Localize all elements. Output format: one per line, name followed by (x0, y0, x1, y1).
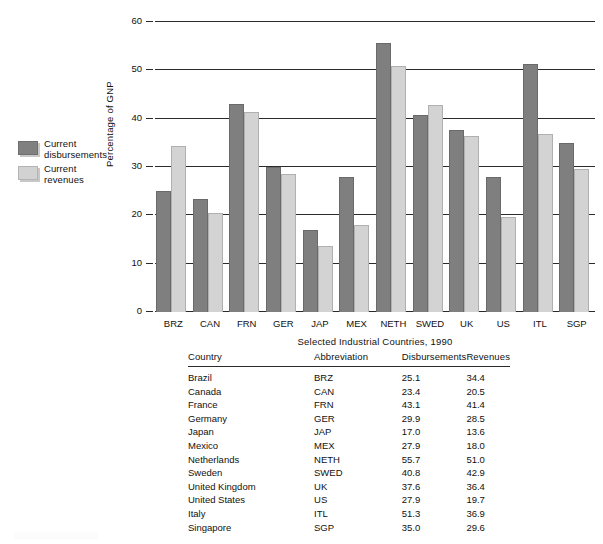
cell-disbursements: 55.7 (402, 453, 467, 467)
cell-abbreviation: CAN (314, 385, 402, 399)
cell-abbreviation: SWED (314, 467, 402, 481)
cell-disbursements: 35.0 (402, 521, 467, 535)
cell-abbreviation: MEX (314, 439, 402, 453)
column-header-abbreviation: Abbreviation (314, 351, 402, 367)
bar-group-jap: JAP (302, 22, 339, 312)
cell-country: United States (188, 494, 314, 508)
bar-group-us: US (485, 22, 522, 312)
bar-brz-disbursements (156, 191, 171, 312)
cell-revenues: 13.6 (466, 426, 510, 440)
cell-country: Brazil (188, 367, 314, 386)
table-header: Country Abbreviation Disbursements Reven… (188, 351, 510, 367)
cell-country: Japan (188, 426, 314, 440)
cell-country: Germany (188, 412, 314, 426)
y-tick-mark-10 (146, 263, 153, 264)
plot-area: 0102030405060 BRZCANFRNGERJAPMEXNETHSWED… (155, 22, 595, 312)
x-tick-label-jap: JAP (302, 318, 339, 329)
column-header-revenues: Revenues (466, 351, 510, 367)
y-tick-mark-20 (146, 214, 153, 215)
bar-swed-revenues (428, 105, 443, 312)
x-tick-label-uk: UK (448, 318, 485, 329)
bar-itl-disbursements (523, 64, 538, 312)
legend-label-revenues: Current revenues (44, 164, 84, 185)
legend-item-current-revenues: Current revenues (18, 164, 128, 185)
legend-swatch-disbursements (18, 141, 38, 155)
data-table: Country Abbreviation Disbursements Reven… (188, 351, 510, 535)
table-row: United StatesUS27.919.7 (188, 494, 510, 508)
bar-mex-revenues (354, 225, 369, 312)
x-tick-label-ger: GER (265, 318, 302, 329)
bar-sgp-disbursements (559, 143, 574, 312)
cell-disbursements: 17.0 (402, 426, 467, 440)
cell-abbreviation: SGP (314, 521, 402, 535)
x-tick-label-mex: MEX (338, 318, 375, 329)
x-tick-label-us: US (485, 318, 522, 329)
legend-label-disbursements: Current disbursements (44, 139, 107, 160)
bar-uk-revenues (464, 136, 479, 312)
column-header-country: Country (188, 351, 314, 367)
y-tick-mark-30 (146, 166, 153, 167)
table-row: United KingdomUK37.636.4 (188, 480, 510, 494)
y-tick-mark-40 (146, 118, 153, 119)
table-row: GermanyGER29.928.5 (188, 412, 510, 426)
cell-revenues: 41.4 (466, 399, 510, 413)
cell-abbreviation: UK (314, 480, 402, 494)
bar-can-revenues (208, 213, 223, 312)
y-tick-label-10: 10 (131, 258, 142, 268)
cell-country: Canada (188, 385, 314, 399)
bar-uk-disbursements (449, 130, 464, 312)
cell-country: Sweden (188, 467, 314, 481)
cell-disbursements: 27.9 (402, 439, 467, 453)
y-tick-label-30: 30 (131, 161, 142, 171)
cell-revenues: 36.4 (466, 480, 510, 494)
table-row: BrazilBRZ25.134.4 (188, 367, 510, 386)
table-row: ItalyITL51.336.9 (188, 507, 510, 521)
bar-sgp-revenues (574, 169, 589, 312)
cell-disbursements: 29.9 (402, 412, 467, 426)
x-tick-label-neth: NETH (375, 318, 412, 329)
bar-group-uk: UK (448, 22, 485, 312)
cell-country: United Kingdom (188, 480, 314, 494)
x-tick-label-frn: FRN (228, 318, 265, 329)
cell-revenues: 51.0 (466, 453, 510, 467)
cell-country: Italy (188, 507, 314, 521)
cell-country: Netherlands (188, 453, 314, 467)
column-header-disbursements: Disbursements (402, 351, 467, 367)
cell-revenues: 28.5 (466, 412, 510, 426)
bar-frn-disbursements (229, 104, 244, 312)
table-row: FranceFRN43.141.4 (188, 399, 510, 413)
cell-abbreviation: GER (314, 412, 402, 426)
bar-group-mex: MEX (338, 22, 375, 312)
bar-group-itl: ITL (522, 22, 559, 312)
x-tick-label-brz: BRZ (155, 318, 192, 329)
bar-series-container: BRZCANFRNGERJAPMEXNETHSWEDUKUSITLSGP (155, 22, 595, 312)
x-tick-label-itl: ITL (522, 318, 559, 329)
table-row: NetherlandsNETH55.751.0 (188, 453, 510, 467)
y-tick-label-60: 60 (131, 16, 142, 26)
table-row: CanadaCAN23.420.5 (188, 385, 510, 399)
cell-disbursements: 23.4 (402, 385, 467, 399)
bar-swed-disbursements (413, 115, 428, 312)
y-tick-label-0: 0 (137, 306, 142, 316)
bar-group-neth: NETH (375, 22, 412, 312)
bar-group-ger: GER (265, 22, 302, 312)
bar-neth-disbursements (376, 43, 391, 312)
table-row: JapanJAP17.013.6 (188, 426, 510, 440)
cell-abbreviation: BRZ (314, 367, 402, 386)
bar-us-revenues (501, 217, 516, 312)
bar-group-frn: FRN (228, 22, 265, 312)
bar-group-can: CAN (192, 22, 229, 312)
scan-artifact (14, 532, 98, 539)
cell-abbreviation: FRN (314, 399, 402, 413)
x-axis-title: Selected Industrial Countries, 1990 (155, 336, 595, 347)
bar-group-brz: BRZ (155, 22, 192, 312)
bar-jap-disbursements (303, 230, 318, 312)
cell-revenues: 34.4 (466, 367, 510, 386)
bar-can-disbursements (193, 199, 208, 312)
x-tick-label-sgp: SGP (558, 318, 595, 329)
cell-revenues: 20.5 (466, 385, 510, 399)
x-tick-label-can: CAN (192, 318, 229, 329)
cell-country: Singapore (188, 521, 314, 535)
y-tick-mark-60 (146, 21, 153, 22)
y-axis-title: Percentage of GNP (104, 155, 115, 167)
